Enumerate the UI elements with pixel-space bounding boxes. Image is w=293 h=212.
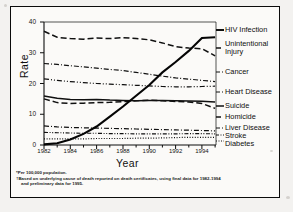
figure-container: Rate Year 40 30 20 10 0 1982 1984 1986 1… <box>0 0 293 212</box>
y-tick-0: 0 <box>14 141 36 148</box>
axis-lines <box>44 22 216 145</box>
legend-item-cancer: Cancer <box>225 68 249 76</box>
scan-speck <box>4 4 7 7</box>
y-tick-30: 30 <box>14 49 36 56</box>
footnote-source-line2: and preliminary data for 1995. <box>16 181 266 187</box>
x-tick-1994: 1994 <box>189 148 215 154</box>
series-stroke <box>44 132 215 134</box>
legend-connectors <box>216 30 224 141</box>
x-tick-1988: 1988 <box>110 148 136 154</box>
series-heart-disease <box>44 79 215 87</box>
legend-item-unintentional-injury-line2: Injury <box>225 48 268 56</box>
y-tick-40: 40 <box>14 18 36 25</box>
legend-item-hiv-infection: HIV Infection <box>225 26 267 34</box>
footnotes: *Per 100,000 population. †Based on under… <box>16 170 266 187</box>
x-axis-label: Year <box>40 157 215 169</box>
x-tick-1986: 1986 <box>84 148 110 154</box>
y-axis-ticks <box>40 22 44 145</box>
series-unintentional-injury <box>44 31 215 56</box>
series-cancer <box>44 64 215 82</box>
scan-speck <box>270 150 273 152</box>
legend-item-unintentional-injury: Unintentional Injury <box>225 40 268 57</box>
y-tick-20: 20 <box>14 80 36 87</box>
y-tick-10: 10 <box>14 110 36 117</box>
legend-item-homicide: Homicide <box>225 113 256 121</box>
x-tick-1990: 1990 <box>136 148 162 154</box>
series-liver-disease <box>44 126 215 131</box>
x-tick-1982: 1982 <box>31 148 57 154</box>
scan-speck <box>286 196 290 199</box>
legend-item-diabetes: Diabetes <box>225 140 254 148</box>
series-hiv-infection <box>44 37 215 144</box>
legend-item-suicide: Suicide <box>225 102 249 110</box>
y-axis-label: Rate <box>18 36 30 96</box>
legend-item-heart-disease: Heart Disease <box>225 88 272 96</box>
x-tick-1984: 1984 <box>57 148 83 154</box>
x-tick-1992: 1992 <box>163 148 189 154</box>
